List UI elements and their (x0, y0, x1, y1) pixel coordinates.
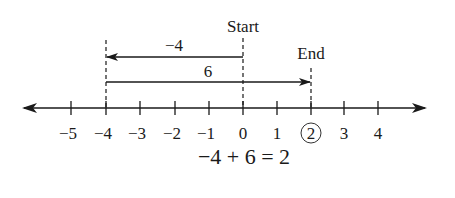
number-line-axis (22, 103, 427, 113)
tick-label: −3 (128, 124, 146, 143)
tick-label: 4 (374, 124, 383, 143)
tick-label: 2 (307, 124, 316, 143)
tick-label: −2 (163, 124, 181, 143)
tick-label: 3 (340, 124, 349, 143)
end-label: End (297, 44, 325, 63)
move-label-6: 6 (204, 62, 213, 81)
move-label-minus-4: −4 (165, 36, 184, 55)
start-label: Start (227, 17, 259, 36)
tick-label: −5 (59, 124, 77, 143)
tick-label: −1 (197, 124, 215, 143)
tick-label: −4 (94, 124, 113, 143)
tick-labels: −5−4−3−2−101234 (59, 123, 383, 143)
tick-label: 1 (273, 124, 282, 143)
number-line-diagram: Start End −4 6 −5−4−3−2−101234 −4 + 6 = … (0, 0, 455, 198)
tick-label: 0 (239, 124, 248, 143)
equation: −4 + 6 = 2 (198, 144, 290, 169)
